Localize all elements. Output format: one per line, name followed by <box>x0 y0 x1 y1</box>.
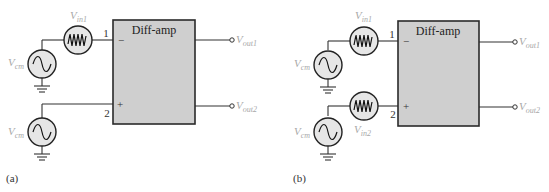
output-terminal-2 <box>230 104 234 108</box>
vout1-label: Vout1 <box>519 35 540 50</box>
vcm-top-label: Vcm <box>294 57 310 72</box>
diff-amp-figure: Diff-amp − + 1 2 Vin1 Vcm Vcm Vout1 <box>0 0 549 192</box>
inverting-sign: − <box>118 34 124 46</box>
diff-amp-label: Diff-amp <box>416 24 460 38</box>
output-terminal-2 <box>513 105 517 109</box>
diff-amp-label: Diff-amp <box>132 23 176 37</box>
noninverting-sign: + <box>117 98 123 110</box>
pin-1-label: 1 <box>389 28 395 40</box>
output-terminal-1 <box>513 40 517 44</box>
panel-b-caption: (b) <box>293 172 306 185</box>
vout2-label: Vout2 <box>519 100 540 115</box>
output-terminal-1 <box>230 38 234 42</box>
pin-2-label: 2 <box>390 108 396 120</box>
ground-icon <box>34 154 50 160</box>
vin2-label: Vin2 <box>354 123 371 138</box>
vout1-label: Vout1 <box>236 33 257 48</box>
ground-icon <box>34 86 50 92</box>
vin1-label: Vin1 <box>355 9 372 24</box>
vcm-top-label: Vcm <box>8 56 24 71</box>
ground-icon <box>320 87 336 93</box>
panel-a-caption: (a) <box>6 172 19 185</box>
vin1-label: Vin1 <box>70 9 87 24</box>
panel-a: Diff-amp − + 1 2 Vin1 Vcm Vcm Vout1 <box>6 9 257 185</box>
ground-icon <box>320 154 336 160</box>
vcm-bottom-label: Vcm <box>294 125 310 140</box>
vcm-bottom-label: Vcm <box>8 125 24 140</box>
pin-1-label: 1 <box>103 27 109 39</box>
panel-b: Diff-amp − + 1 2 Vin1 Vcm Vin2 Vcm <box>293 9 540 185</box>
inverting-sign: − <box>403 35 409 47</box>
vout2-label: Vout2 <box>236 99 257 114</box>
pin-2-label: 2 <box>104 107 110 119</box>
noninverting-sign: + <box>403 100 409 112</box>
